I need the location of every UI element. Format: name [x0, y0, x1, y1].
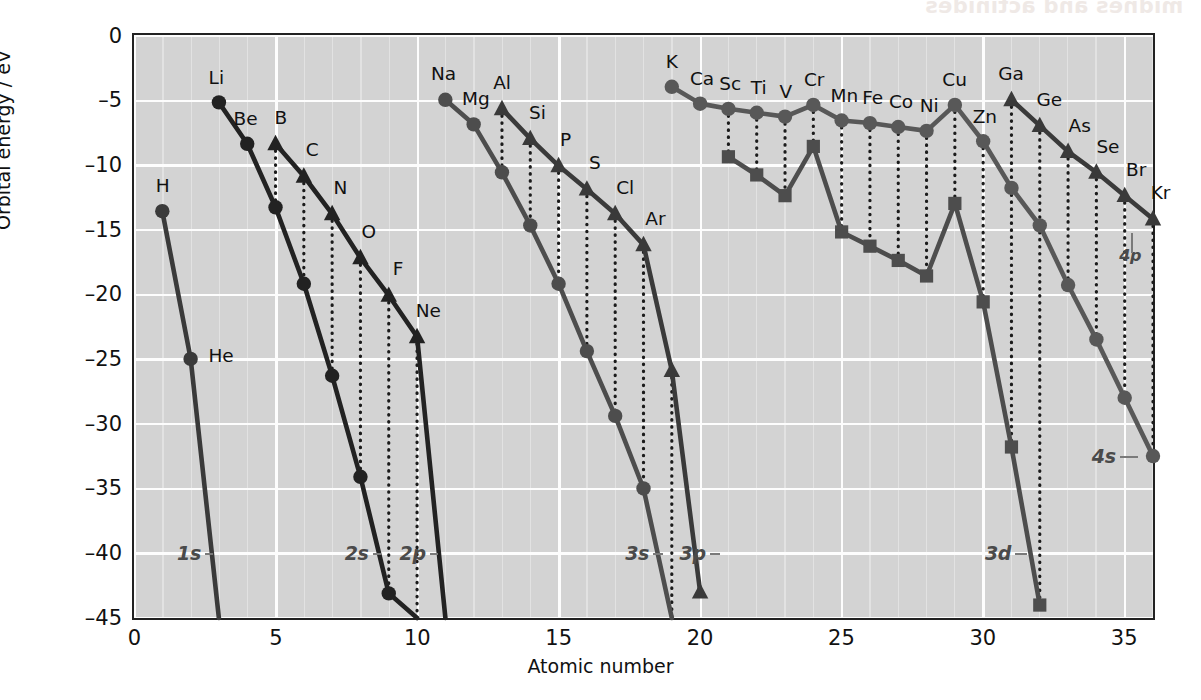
data-point-4s [1089, 332, 1103, 346]
data-point-2p [267, 135, 283, 150]
data-point-3s [523, 218, 537, 232]
element-label-O: O [361, 222, 376, 241]
element-label-Ga: Ga [998, 65, 1024, 84]
orbital-leader-line [1015, 553, 1027, 555]
data-point-3s [580, 344, 594, 358]
x-tick-label: 15 [529, 626, 589, 650]
orbital-label-3s: 3s [625, 542, 649, 564]
series-line-3d [728, 146, 1039, 605]
data-point-3s [466, 117, 480, 131]
element-label-Al: Al [493, 74, 511, 93]
element-label-Ni: Ni [920, 97, 939, 116]
orbital-label-3d: 3d [985, 542, 1011, 564]
element-label-Br: Br [1126, 160, 1146, 179]
x-tick-label: 10 [387, 626, 447, 650]
data-point-3d [807, 140, 820, 153]
data-point-3p [692, 583, 708, 598]
element-label-F: F [393, 260, 404, 279]
data-point-3d [977, 295, 990, 308]
element-label-Mg: Mg [462, 89, 490, 108]
element-label-As: As [1069, 116, 1091, 135]
data-point-4s [721, 102, 735, 116]
data-point-2s [325, 369, 339, 383]
element-label-Fe: Fe [862, 89, 883, 108]
x-tick-label: 25 [811, 626, 871, 650]
y-tick-label: 0 [44, 24, 122, 48]
x-axis-title: Atomic number [0, 655, 1201, 677]
data-point-4s [834, 113, 848, 127]
element-label-Cl: Cl [616, 178, 634, 197]
y-tick-label: –10 [44, 153, 122, 177]
data-point-2s [297, 277, 311, 291]
element-label-K: K [666, 53, 678, 72]
element-label-H: H [156, 177, 170, 196]
series-line-3s [445, 100, 671, 618]
orbital-label-3p: 3p [679, 542, 705, 564]
element-label-Ne: Ne [416, 301, 441, 320]
data-point-3s [495, 165, 509, 179]
x-tick-label: 20 [670, 626, 730, 650]
x-tick-label: 35 [1094, 626, 1154, 650]
data-point-4s [693, 96, 707, 110]
element-label-Sc: Sc [719, 75, 741, 94]
element-label-B: B [275, 109, 288, 128]
data-point-4s [806, 98, 820, 112]
element-label-Be: Be [234, 110, 258, 129]
orbital-label-2s: 2s [345, 542, 369, 564]
element-label-Si: Si [529, 103, 546, 122]
data-point-3s [438, 93, 452, 107]
page-bleedthrough-text: midnes and actinides [925, 0, 1183, 18]
element-label-Ti: Ti [751, 79, 767, 98]
element-label-Kr: Kr [1151, 184, 1171, 203]
element-label-P: P [560, 131, 571, 150]
y-tick-label: –20 [44, 282, 122, 306]
element-label-V: V [780, 82, 793, 101]
orbital-leader-line [373, 553, 381, 555]
data-point-1s [183, 352, 197, 366]
data-point-3d [1033, 598, 1046, 611]
series-line-4s [672, 87, 1153, 456]
data-point-3p [494, 100, 510, 115]
data-point-3d [750, 168, 763, 181]
data-point-3d [948, 197, 961, 210]
orbital-leader-line [653, 553, 663, 555]
data-point-3d [722, 150, 735, 163]
data-point-4s [1146, 449, 1160, 463]
data-point-3d [920, 269, 933, 282]
data-point-3d [892, 254, 905, 267]
data-point-3d [863, 240, 876, 253]
x-tick-label: 5 [246, 626, 306, 650]
y-tick-label: –5 [44, 88, 122, 112]
orbital-leader-line [710, 553, 720, 555]
data-point-2s [353, 470, 367, 484]
orbital-leader-line [1120, 456, 1139, 458]
data-point-3d [778, 189, 791, 202]
data-point-3p [664, 362, 680, 377]
orbital-label-4s: 4s [1092, 445, 1116, 467]
chart-page: midnes and actinides 0–5–10–15–20–25–30–… [0, 0, 1201, 700]
element-label-N: N [334, 178, 348, 197]
data-point-4p [1003, 91, 1019, 106]
orbital-leader-line [1131, 233, 1133, 253]
element-label-Co: Co [889, 93, 913, 112]
data-point-4s [976, 134, 990, 148]
element-label-C: C [306, 141, 319, 160]
element-label-Zn: Zn [973, 107, 997, 126]
element-label-Cu: Cu [942, 71, 967, 90]
data-point-4s [919, 124, 933, 138]
data-point-3s [636, 481, 650, 495]
data-point-4s [1004, 181, 1018, 195]
data-point-3d [835, 225, 848, 238]
data-point-4s [948, 98, 962, 112]
data-point-2s [240, 137, 254, 151]
y-axis-title: Orbital energy / eV [0, 50, 14, 230]
element-label-Ca: Ca [690, 70, 714, 89]
element-label-Ar: Ar [645, 210, 665, 229]
data-point-4s [665, 80, 679, 94]
element-label-Cr: Cr [804, 71, 825, 90]
data-point-3s [608, 409, 622, 423]
data-point-3d [1005, 440, 1018, 453]
element-label-Ge: Ge [1037, 91, 1063, 110]
data-point-3s [551, 277, 565, 291]
data-point-2s [268, 200, 282, 214]
